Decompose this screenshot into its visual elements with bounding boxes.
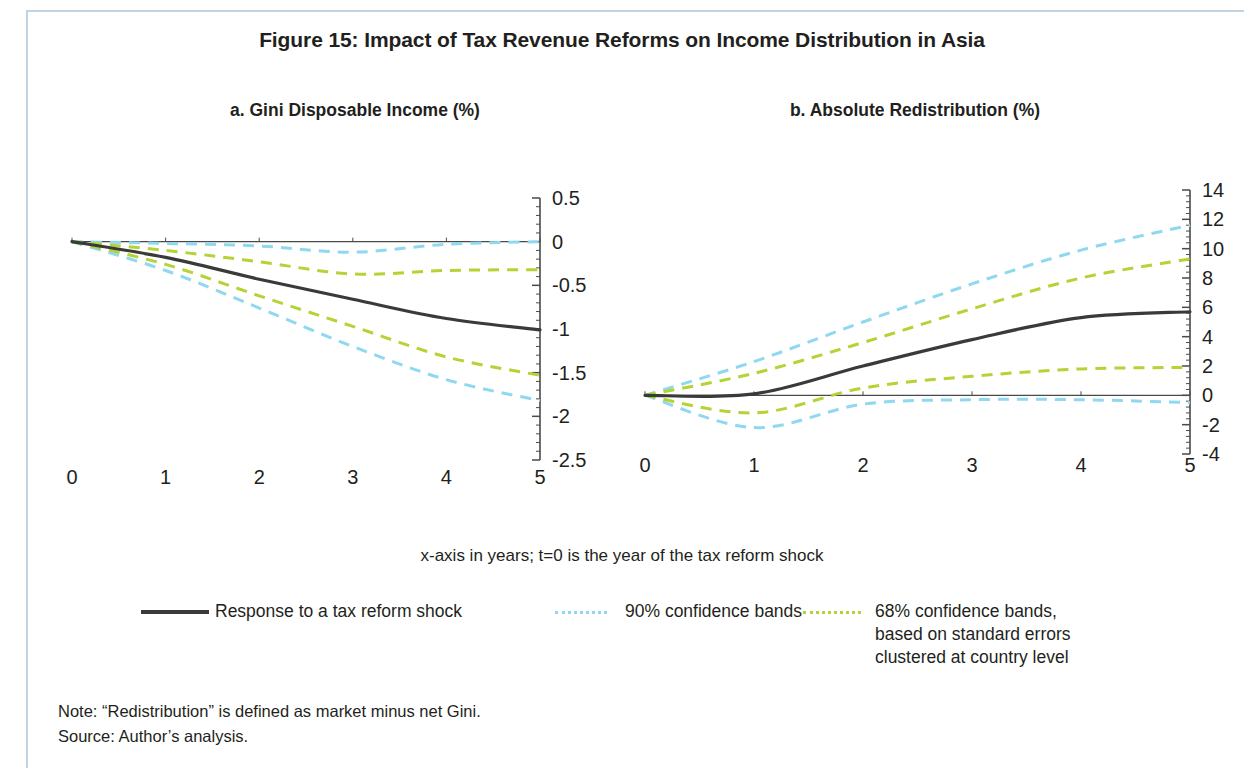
series-line	[72, 242, 540, 252]
solid-line-swatch	[135, 602, 215, 620]
x-axis-tick-label: 3	[347, 466, 358, 489]
y-axis-tick-label: -2.5	[552, 449, 586, 472]
chart-panel-a: 0.50-0.5-1-1.5-2-2.5012345	[60, 180, 540, 470]
series-line	[645, 312, 1190, 397]
x-axis-tick-label: 0	[66, 466, 77, 489]
legend-item-band-68: 68% confidence bands,based on standard e…	[795, 600, 1071, 669]
legend-label-band-90: 90% confidence bands	[625, 600, 802, 623]
legend-label-band-68: 68% confidence bands,based on standard e…	[875, 600, 1071, 669]
page-border-top	[26, 10, 1244, 12]
y-axis-tick-label: 0.5	[552, 187, 580, 210]
y-axis-tick-label: -2	[1202, 413, 1220, 436]
x-axis-tick-label: 3	[966, 454, 977, 477]
y-axis-tick-label: -1.5	[552, 361, 586, 384]
y-axis-tick-label: -2	[552, 405, 570, 428]
chart-legend: Response to a tax reform shock 90% confi…	[0, 600, 1244, 680]
legend-label-response: Response to a tax reform shock	[215, 600, 462, 623]
y-axis-tick-label: 12	[1202, 208, 1224, 231]
y-axis-tick-label: -4	[1202, 443, 1220, 466]
figure-note: Note: “Redistribution” is defined as mar…	[58, 700, 481, 724]
x-axis-tick-label: 0	[639, 454, 650, 477]
panel-a-svg	[60, 180, 540, 470]
figure-title: Figure 15: Impact of Tax Revenue Reforms…	[0, 28, 1244, 52]
y-axis-tick-label: 4	[1202, 325, 1213, 348]
y-axis-tick-label: 10	[1202, 237, 1224, 260]
x-axis-tick-label: 1	[160, 466, 171, 489]
x-axis-tick-label: 5	[1184, 454, 1195, 477]
legend-item-band-90: 90% confidence bands	[545, 600, 802, 623]
y-axis-tick-label: -0.5	[552, 274, 586, 297]
x-axis-tick-label: 2	[857, 454, 868, 477]
panel-b-title: b. Absolute Redistribution (%)	[740, 100, 1090, 121]
y-axis-tick-label: 8	[1202, 267, 1213, 290]
x-axis-tick-label: 2	[254, 466, 265, 489]
series-line	[645, 367, 1190, 413]
series-line	[72, 242, 540, 275]
series-line	[72, 242, 540, 330]
y-axis-tick-label: 6	[1202, 296, 1213, 319]
x-axis-tick-label: 5	[534, 466, 545, 489]
chart-panel-b: 14121086420-2-4012345	[635, 180, 1195, 470]
figure-source: Source: Author’s analysis.	[58, 725, 248, 749]
y-axis-tick-label: 14	[1202, 179, 1224, 202]
series-line	[645, 259, 1190, 395]
series-line	[645, 225, 1190, 395]
panel-b-svg	[635, 180, 1195, 470]
x-axis-tick-label: 4	[1075, 454, 1086, 477]
x-axis-note: x-axis in years; t=0 is the year of the …	[0, 546, 1244, 566]
dashed-green-swatch	[795, 602, 875, 620]
y-axis-tick-label: 0	[552, 230, 563, 253]
y-axis-tick-label: -1	[552, 318, 570, 341]
dashed-cyan-swatch	[545, 602, 625, 620]
x-axis-tick-label: 4	[441, 466, 452, 489]
x-axis-tick-label: 1	[748, 454, 759, 477]
y-axis-tick-label: 2	[1202, 355, 1213, 378]
figure-page: Figure 15: Impact of Tax Revenue Reforms…	[0, 0, 1244, 768]
y-axis-tick-label: 0	[1202, 384, 1213, 407]
series-line	[72, 242, 540, 376]
legend-item-response: Response to a tax reform shock	[135, 600, 462, 623]
panel-a-title: a. Gini Disposable Income (%)	[180, 100, 530, 121]
